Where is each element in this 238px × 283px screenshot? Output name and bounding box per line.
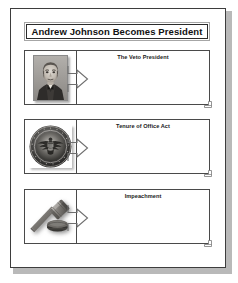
resize-handle[interactable] <box>204 100 212 108</box>
row-heading: The Veto President <box>77 54 209 60</box>
gavel-artwork <box>28 197 74 237</box>
row-heading: Impeachment <box>77 193 209 199</box>
content-row[interactable]: The Veto President <box>24 50 210 105</box>
page-title-container[interactable]: Andrew Johnson Becomes President <box>24 22 210 41</box>
text-cell[interactable]: Tenure of Office Act <box>77 120 209 173</box>
portrait-artwork <box>34 56 67 100</box>
content-row[interactable]: Impeachment <box>24 189 210 244</box>
page-content-area: Andrew Johnson Becomes President <box>11 9 225 267</box>
presidential-seal-artwork <box>29 125 72 168</box>
content-row[interactable]: Tenure of Office Act <box>24 119 210 174</box>
andrew-johnson-portrait <box>33 55 68 101</box>
image-cell[interactable] <box>25 190 76 243</box>
presidential-seal <box>29 125 72 168</box>
image-cell[interactable] <box>25 120 76 173</box>
document-page: Andrew Johnson Becomes President <box>10 8 226 268</box>
gavel <box>28 197 74 237</box>
text-cell[interactable]: The Veto President <box>77 51 209 104</box>
resize-handle[interactable] <box>204 169 212 177</box>
page-title-box: Andrew Johnson Becomes President <box>26 24 208 39</box>
page-title: Andrew Johnson Becomes President <box>31 26 202 37</box>
resize-handle[interactable] <box>204 239 212 247</box>
text-cell[interactable]: Impeachment <box>77 190 209 243</box>
image-cell[interactable] <box>25 51 76 104</box>
row-heading: Tenure of Office Act <box>77 123 209 129</box>
